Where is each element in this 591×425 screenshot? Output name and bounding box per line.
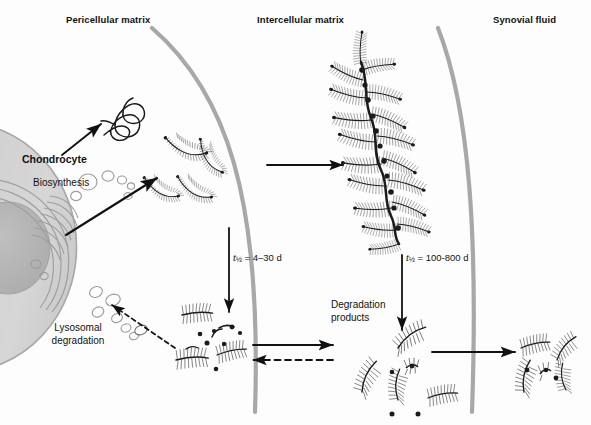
biosynthesis-label: Biosynthesis [33, 177, 89, 188]
halflife-aggregate-label: t½ = 100-800 d [406, 252, 469, 264]
fragment-knot [404, 358, 419, 375]
lysosomal-degradation-line1: Lysosomal [54, 322, 101, 333]
aggrecan-monomers-pericellular [142, 120, 232, 210]
proteoglycan-turnover-figure: Pericellular matrix Intercellular matrix… [0, 0, 591, 425]
hyaluronan-chain [101, 98, 144, 140]
halflife-aggregate-value: = 100-800 d [415, 252, 469, 263]
intercellular-synovial-boundary [438, 28, 474, 412]
debris-dots [390, 370, 421, 417]
proteoglycan-aggregate [327, 30, 432, 260]
arrow-secretion-hyaluronan [62, 124, 101, 155]
debris-dots [525, 368, 559, 381]
lysosomal-degradation-line2: degradation [52, 335, 105, 346]
zone-label-intercellular: Intercellular matrix [257, 14, 344, 25]
halflife-monomer-value: = 4–30 d [242, 252, 282, 263]
pericellular-intercellular-boundary [152, 28, 256, 412]
fragments-pericellular [176, 303, 248, 371]
debris-dots [186, 325, 242, 372]
fragments-synovial [507, 330, 584, 397]
hyaluronan-backbone [361, 62, 399, 244]
fragments-intercellular [346, 319, 458, 416]
zone-label-pericellular: Pericellular matrix [66, 14, 150, 25]
halflife-monomer-label: t½ = 4–30 d [233, 252, 282, 264]
lysosomal-degradation-label: Lysosomal degradation [30, 322, 126, 347]
figure-canvas [0, 0, 591, 425]
degradation-products-line2: products [331, 312, 369, 323]
fragment-knot [538, 362, 551, 381]
zone-boundaries [152, 28, 474, 412]
degradation-products-label: Degradation products [331, 299, 385, 324]
chondrocyte-label: Chondrocyte [22, 153, 87, 165]
degradation-products-line1: Degradation [331, 299, 385, 310]
zone-label-synovial: Synovial fluid [493, 14, 556, 25]
